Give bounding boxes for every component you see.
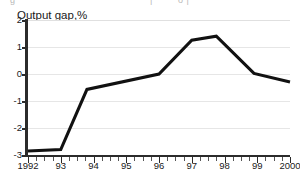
output-gap-line [28,36,290,151]
series-layer [0,0,300,172]
chart-figure: g | o | Output gap,% 2 1 0 -1 -2 -3 1992… [0,0,300,172]
